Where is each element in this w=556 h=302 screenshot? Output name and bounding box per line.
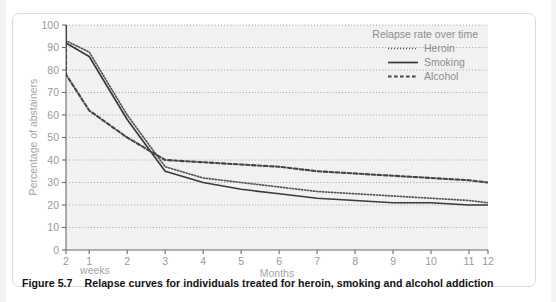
x-axis-ticks <box>66 250 488 254</box>
x-axis-tick-label: 8 <box>352 255 358 267</box>
figure-page: 0102030405060708090100 2123456789101112 … <box>0 0 556 302</box>
y-axis-tick-label: 20 <box>47 199 59 211</box>
y-axis-tick-label: 90 <box>47 41 59 53</box>
y-axis-title: Percentage of abstainers <box>27 79 39 196</box>
legend-label-heroin: Heroin <box>424 42 455 54</box>
x-axis-tick-label: 2 <box>63 255 69 267</box>
x-axis-tick-label: 3 <box>162 255 168 267</box>
y-axis-tick-label: 0 <box>53 244 59 256</box>
y-axis-tick-label: 100 <box>41 19 59 31</box>
chart-svg: 0102030405060708090100 2123456789101112 … <box>0 0 556 302</box>
x-axis-tick-label: 9 <box>390 255 396 267</box>
legend-label-alcohol: Alcohol <box>424 70 458 82</box>
y-axis-tick-label: 30 <box>47 176 59 188</box>
y-axis-tick-labels: 0102030405060708090100 <box>41 19 59 256</box>
y-axis-tick-label: 50 <box>47 131 59 143</box>
x-axis-tick-label: 2 <box>124 255 130 267</box>
y-axis-tick-label: 80 <box>47 64 59 76</box>
x-axis-tick-label: 7 <box>314 255 320 267</box>
y-axis-tick-label: 40 <box>47 154 59 166</box>
x-axis-tick-label: 4 <box>200 255 206 267</box>
legend-label-smoking: Smoking <box>424 56 465 68</box>
y-axis-ticks <box>62 25 66 250</box>
x-axis-title-weeks: weeks <box>79 264 110 276</box>
x-axis-tick-label: 11 <box>464 255 475 267</box>
x-axis-tick-label: 6 <box>276 255 282 267</box>
y-axis-tick-label: 60 <box>47 109 59 121</box>
x-axis-tick-labels: 2123456789101112 <box>63 255 494 267</box>
legend-title: Relapse rate over time <box>372 28 478 40</box>
figure-caption-text: Relapse curves for individuals treated f… <box>85 277 494 289</box>
y-axis-tick-label: 10 <box>47 221 59 233</box>
y-axis-tick-label: 70 <box>47 86 59 98</box>
figure-caption-label: Figure 5.7 <box>22 277 73 289</box>
x-axis-tick-label: 10 <box>425 255 437 267</box>
x-axis-tick-label: 12 <box>482 255 494 267</box>
figure-caption: Figure 5.7 Relapse curves for individual… <box>22 277 532 289</box>
x-axis-tick-label: 5 <box>238 255 244 267</box>
relapse-curves-chart: 0102030405060708090100 2123456789101112 … <box>0 0 556 302</box>
